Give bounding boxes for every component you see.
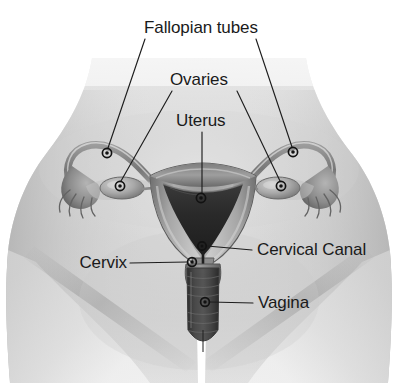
label-ovaries: Ovaries (170, 70, 228, 89)
label-vagina: Vagina (258, 293, 310, 312)
anatomy-figure: Fallopian tubes Ovaries Uterus Cervical … (0, 0, 398, 383)
label-fallopian-tubes: Fallopian tubes (144, 18, 258, 37)
label-uterus: Uterus (176, 111, 225, 130)
label-cervical-canal: Cervical Canal (257, 240, 366, 259)
right-ovary (256, 177, 300, 199)
anatomy-illustration: Fallopian tubes Ovaries Uterus Cervical … (0, 0, 398, 383)
label-cervix: Cervix (79, 253, 127, 272)
